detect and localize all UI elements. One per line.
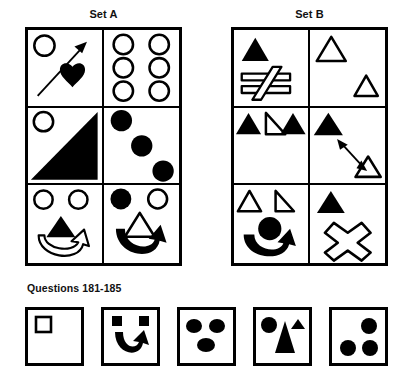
curved-arrow-filled-icon — [115, 330, 149, 353]
triangle-filled-icon — [236, 113, 261, 134]
circle-filled-icon — [361, 318, 377, 334]
ellipse-filled-icon — [186, 319, 202, 333]
circle-outline-icon — [148, 190, 167, 209]
set-b-cell-5-figure — [234, 185, 308, 263]
set-a-cell-3[interactable] — [28, 108, 104, 186]
triangle-filled-icon — [313, 113, 342, 135]
triangle-filled-small-icon — [291, 319, 305, 329]
set-b-cell-6[interactable] — [310, 185, 386, 263]
set-b-cell-1-figure — [234, 30, 308, 106]
triangle-outline-icon — [124, 213, 154, 237]
worksheet-stage: Set A Set B — [0, 0, 410, 387]
triangle-filled-icon — [46, 216, 75, 237]
circle-outline-icon — [34, 35, 54, 55]
circle-outline-icon — [113, 58, 132, 77]
set-a-cell-5-figure — [28, 185, 102, 263]
set-a-cell-4[interactable] — [104, 108, 180, 186]
square-outline-icon — [36, 317, 51, 332]
set-a-cell-1-figure — [28, 30, 102, 106]
set-b-cell-2-figure — [310, 30, 386, 106]
set-b-cell-5[interactable] — [234, 185, 310, 263]
curved-arrow-filled-icon — [115, 225, 166, 254]
questions-label: Questions 181-185 — [27, 282, 122, 294]
right-triangle-filled-icon — [31, 112, 98, 180]
circle-outline-icon — [113, 35, 132, 54]
answer-option-3[interactable] — [177, 307, 236, 366]
triangle-filled-tall-icon — [275, 321, 295, 353]
answer-option-4-figure — [256, 310, 309, 363]
set-a-cell-3-figure — [28, 108, 102, 184]
right-triangle-outline-icon — [276, 191, 294, 211]
set-b-title: Set B — [231, 8, 388, 20]
set-b-cell-1[interactable] — [234, 30, 310, 108]
circle-filled-icon — [152, 160, 173, 181]
circle-outline-icon — [69, 191, 87, 209]
answer-option-5-figure — [332, 310, 385, 363]
triangle-filled-icon — [316, 191, 344, 213]
set-a-cell-2-figure — [104, 30, 180, 106]
answer-option-1-figure — [28, 310, 81, 363]
set-a-grid — [25, 27, 182, 266]
set-a-cell-6-figure — [104, 185, 180, 263]
circle-filled-icon — [110, 189, 131, 210]
circle-outline-icon — [149, 58, 168, 77]
triangle-outline-icon — [238, 191, 261, 211]
set-b-cell-4[interactable] — [310, 108, 386, 186]
set-b-cell-2[interactable] — [310, 30, 386, 108]
set-b-cell-6-figure — [310, 185, 386, 263]
ellipse-filled-icon — [197, 338, 215, 352]
set-b-grid — [231, 27, 388, 266]
answer-option-3-figure — [180, 310, 233, 363]
set-b-cell-3-figure — [234, 108, 308, 184]
answer-option-5[interactable] — [329, 307, 388, 366]
circle-filled-icon — [261, 317, 277, 333]
answer-option-1[interactable] — [25, 307, 84, 366]
circle-filled-icon — [340, 340, 356, 356]
circle-outline-icon — [113, 81, 132, 100]
triangle-outline-icon — [354, 76, 377, 96]
triangle-filled-icon — [242, 38, 269, 61]
set-a-title: Set A — [25, 8, 182, 20]
circle-outline-icon — [34, 191, 52, 209]
square-filled-icon — [139, 316, 149, 326]
set-a-cell-1[interactable] — [28, 30, 104, 108]
answer-option-4[interactable] — [253, 307, 312, 366]
heart-filled-icon — [60, 63, 85, 87]
set-b-cell-4-figure — [310, 108, 386, 184]
answer-option-2-figure — [104, 310, 157, 363]
triangle-filled-icon — [280, 113, 305, 134]
square-filled-icon — [112, 316, 122, 326]
circle-filled-icon — [110, 110, 131, 131]
not-equals-outline-icon — [242, 67, 290, 100]
circle-filled-icon — [131, 135, 152, 156]
triangle-outline-icon — [316, 37, 345, 61]
ellipse-filled-icon — [209, 319, 225, 333]
set-a-cell-2[interactable] — [104, 30, 180, 108]
circle-filled-icon — [362, 340, 378, 356]
set-a-cell-4-figure — [104, 108, 180, 184]
answer-option-2[interactable] — [101, 307, 160, 366]
set-b-cell-3[interactable] — [234, 108, 310, 186]
x-cross-outline-icon — [324, 223, 370, 261]
circle-filled-icon — [258, 217, 281, 240]
answer-options-row — [25, 307, 388, 366]
circle-outline-icon — [34, 112, 53, 131]
circle-outline-icon — [149, 81, 168, 100]
set-a-cell-6[interactable] — [104, 185, 180, 263]
set-a-cell-5[interactable] — [28, 185, 104, 263]
circle-outline-icon — [149, 35, 168, 54]
